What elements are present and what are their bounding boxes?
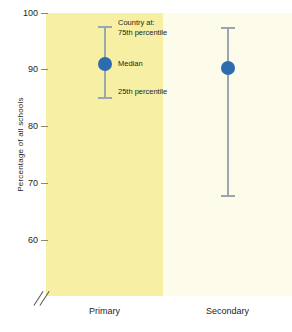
y-tick-label-70: 70 — [12, 178, 38, 188]
errorbar-line-secondary — [227, 28, 229, 196]
x-tick-label-primary: Primary — [46, 306, 163, 316]
y-tick-mark-100 — [41, 13, 48, 14]
errorbar-secondary — [213, 0, 243, 283]
y-tick-mark-60 — [41, 240, 48, 241]
errorbar-cap-lower-secondary — [221, 195, 235, 197]
y-tick-label-60: 60 — [12, 235, 38, 245]
y-axis-title: Percentage of all schools — [16, 65, 25, 225]
annotation-median: Median — [118, 59, 143, 69]
y-tick-label-100: 100 — [12, 8, 38, 18]
chart-container: Percentage of all schools 100 90 80 70 6… — [0, 0, 292, 332]
y-tick-label-80: 80 — [12, 121, 38, 131]
y-tick-label-90: 90 — [12, 64, 38, 74]
y-tick-mark-90 — [41, 69, 48, 70]
errorbar-primary — [90, 0, 120, 283]
annotation-lower-percentile: 25th percentile — [118, 87, 167, 97]
median-marker-primary — [98, 57, 112, 71]
median-marker-secondary — [221, 61, 235, 75]
x-tick-label-secondary: Secondary — [163, 306, 292, 316]
errorbar-cap-lower-primary — [98, 97, 112, 99]
y-tick-mark-70 — [41, 183, 48, 184]
y-tick-mark-80 — [41, 126, 48, 127]
annotation-upper-percentile: Country at: 75th percentile — [118, 18, 167, 38]
